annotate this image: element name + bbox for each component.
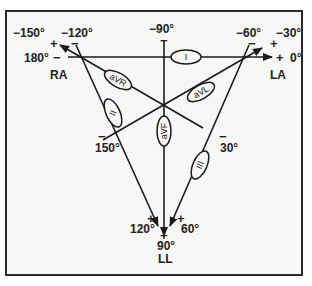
lead-iii-axis <box>170 45 249 226</box>
angle-90: 90° <box>157 240 175 252</box>
sign-minus-ii: − <box>71 37 79 50</box>
vertex-ra: RA <box>50 69 67 81</box>
angle-neg150: −150° <box>13 27 45 39</box>
hexaxial-diagram: I aVR aVL aVF II III <box>0 0 312 286</box>
sign-plus-avl: + <box>270 37 278 50</box>
lead-i-label: I <box>185 52 188 62</box>
vertex-la: LA <box>270 69 286 81</box>
angle-30: 30° <box>220 142 238 154</box>
angle-60: 60° <box>181 223 199 235</box>
angle-120: 120° <box>130 223 155 235</box>
lead-avf-label: aVF <box>159 122 169 139</box>
sign-plus-avr: + <box>50 37 58 50</box>
sign-minus-avf: − <box>160 34 168 47</box>
angle-180: 180° <box>24 52 49 64</box>
sign-plus-i: + <box>276 51 284 64</box>
angle-0: 0° <box>290 52 301 64</box>
vertex-ll: LL <box>158 253 173 265</box>
sign-minus-i: − <box>53 51 61 64</box>
sign-minus-iii: − <box>248 37 256 50</box>
angle-150: 150° <box>95 142 120 154</box>
angle-neg30: −30° <box>276 27 301 39</box>
